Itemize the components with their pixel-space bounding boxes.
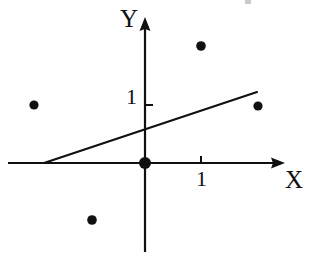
origin-dot xyxy=(139,157,151,169)
y-axis-tick-label-1: 1 xyxy=(126,86,137,108)
y-axis-arrowhead xyxy=(140,17,151,31)
y-axis-label: Y xyxy=(120,6,138,31)
data-point xyxy=(87,215,97,225)
x-axis-arrowhead xyxy=(271,158,285,169)
x-axis-tick-label-1: 1 xyxy=(196,168,207,190)
data-point xyxy=(29,100,38,109)
data-point xyxy=(196,41,206,51)
data-point xyxy=(253,101,262,110)
scatter-plot-figure: Y X 1 1 xyxy=(0,0,315,258)
cropped-text-artifact xyxy=(245,0,251,4)
fitted-line xyxy=(44,92,257,163)
x-axis-label: X xyxy=(285,167,303,192)
plot-canvas xyxy=(0,0,315,258)
